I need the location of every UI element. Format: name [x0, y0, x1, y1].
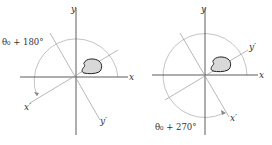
x-axis-label: x — [259, 70, 264, 80]
angle-label: θ₀ + 270° — [155, 122, 197, 132]
angle-label: θ₀ + 180° — [2, 37, 44, 47]
x-axis-label: x — [129, 72, 134, 82]
y-prime-axis — [50, 33, 100, 120]
rotation-diagram: x y x′ y′ θ₀ + 180° x y y′ x′ θ₀ + 270° — [0, 0, 272, 145]
panel-right: x y y′ x′ θ₀ + 270° — [152, 4, 264, 135]
y-prime-label: y′ — [99, 116, 107, 126]
y-prime-label: y′ — [248, 42, 256, 52]
rigid-body-shape — [211, 57, 231, 72]
rigid-body-shape — [82, 59, 102, 74]
y-axis-label: y — [70, 4, 77, 14]
panel-left: x y x′ y′ θ₀ + 180° — [2, 4, 134, 135]
y-axis-label: y — [200, 4, 207, 14]
x-prime-label: x′ — [24, 102, 31, 112]
x-prime-axis — [30, 50, 118, 103]
x-prime-label: x′ — [230, 113, 237, 123]
